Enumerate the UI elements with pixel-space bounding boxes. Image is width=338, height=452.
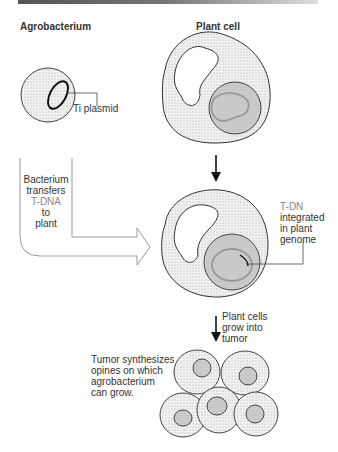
down-arrow-icon [211, 316, 221, 342]
label-integrated: T-DN integrated in plant genome [280, 201, 324, 245]
plant-cell-top [162, 32, 270, 143]
label-ti-plasmid: Ti plasmid [73, 103, 118, 114]
label-tumor: Tumor synthesizes opines on which agroba… [91, 354, 175, 398]
down-arrow-icon [211, 155, 221, 182]
header-plant-cell: Plant cell [196, 21, 240, 32]
label-grow: Plant cells grow into tumor [222, 311, 268, 344]
tumor-cells [160, 350, 278, 437]
label-transfer: Bacterium transfers T-DNA to plant [22, 174, 70, 229]
header-agrobacterium: Agrobacterium [20, 21, 91, 32]
